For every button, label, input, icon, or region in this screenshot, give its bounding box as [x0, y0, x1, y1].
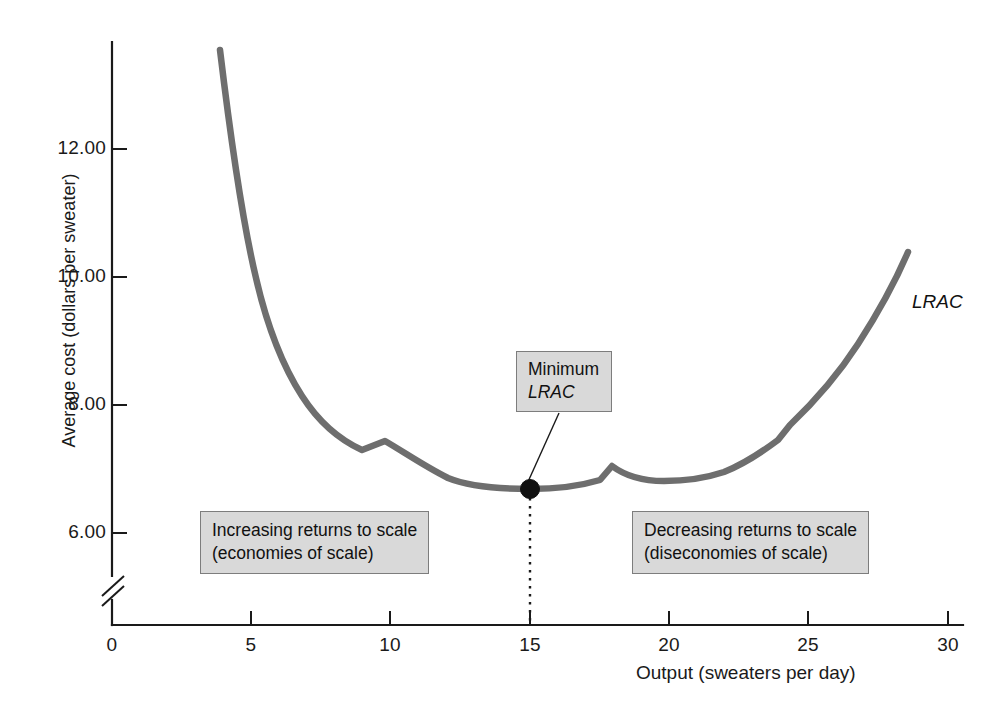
- y-tick-label-6: 6.00: [34, 521, 106, 543]
- x-tick-label-20: 20: [649, 634, 689, 656]
- decreasing-returns-line2: (diseconomies of scale): [644, 542, 857, 565]
- x-tick-label-25: 25: [788, 634, 828, 656]
- x-tick-label-5: 5: [231, 634, 271, 656]
- minimum-lrac-point: [521, 480, 540, 499]
- x-tick-label-30: 30: [928, 634, 968, 656]
- x-tick-label-15: 15: [510, 634, 550, 656]
- minimum-callout-line1: Minimum: [528, 358, 599, 381]
- minimum-callout-line2: LRAC: [528, 381, 599, 404]
- lrac-curve-label: LRAC: [912, 291, 963, 313]
- plot-area: [0, 0, 996, 705]
- increasing-returns-line1: Increasing returns to scale: [212, 519, 417, 542]
- y-axis-break-mark-upper: [102, 576, 124, 596]
- y-axis-title: Average cost (dollars per sweater): [59, 146, 80, 476]
- x-tick-marks: [251, 611, 948, 625]
- x-tick-label-0: 0: [92, 634, 132, 656]
- increasing-returns-line2: (economies of scale): [212, 542, 417, 565]
- y-tick-marks: [112, 149, 127, 533]
- decreasing-returns-line1: Decreasing returns to scale: [644, 519, 857, 542]
- minimum-lrac-callout: Minimum LRAC: [516, 351, 612, 412]
- lrac-figure: 12.00 10.00 8.00 6.00 0 5 10 15 20 25 30…: [0, 0, 996, 705]
- x-axis-title: Output (sweaters per day): [636, 662, 856, 684]
- x-tick-label-10: 10: [370, 634, 410, 656]
- increasing-returns-callout: Increasing returns to scale (economies o…: [200, 511, 429, 574]
- lrac-curve: [220, 50, 908, 489]
- decreasing-returns-callout: Decreasing returns to scale (diseconomie…: [632, 511, 869, 574]
- minimum-leader-line: [527, 413, 559, 484]
